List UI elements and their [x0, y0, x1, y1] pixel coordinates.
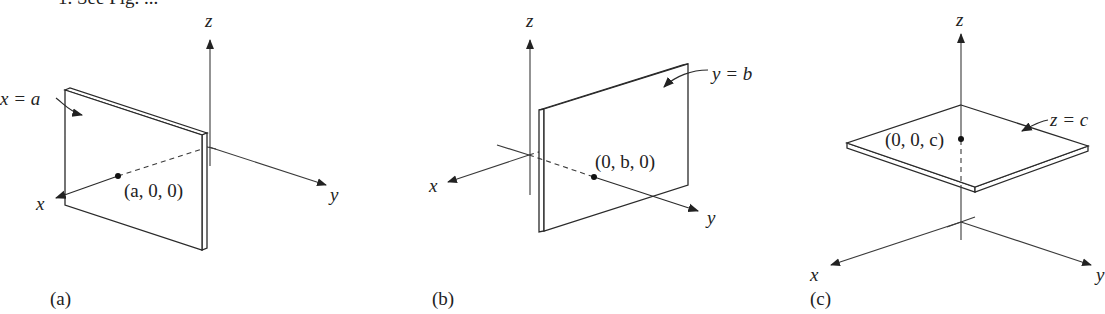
plate-side-edge: [539, 109, 544, 232]
y-axis-label: y: [328, 184, 339, 205]
x-axis-back: [497, 145, 529, 155]
z-axis-label: z: [525, 10, 534, 31]
plate-x-equals-a: [65, 90, 202, 250]
panel-caption: (b): [432, 288, 454, 310]
panel-caption: (c): [810, 288, 831, 310]
plate-y-equals-b: [544, 64, 688, 231]
point-marker: [958, 136, 964, 142]
plate-side-edge: [202, 133, 207, 250]
z-axis-label: z: [955, 9, 964, 30]
point-label: (a, 0, 0): [124, 180, 183, 202]
x-axis: [448, 155, 529, 182]
panel-c: z y x z = c (0, 0, c) (c): [809, 9, 1105, 310]
panel-b: z y x y = b (0, b, 0) (b): [428, 10, 752, 310]
x-axis-label: x: [35, 193, 45, 214]
point-label: (0, b, 0): [595, 151, 655, 173]
x-axis-label: x: [809, 264, 819, 285]
panel-caption: (a): [50, 288, 71, 310]
x-axis-label: x: [428, 175, 438, 196]
plane-label: z = c: [1049, 109, 1089, 130]
y-axis: [209, 147, 326, 185]
y-axis-label: y: [705, 207, 716, 228]
panel-a: z y x x = a (a, 0, 0) (a): [0, 10, 339, 310]
point-label: (0, 0, c): [885, 129, 944, 151]
y-axis: [961, 222, 1091, 265]
coordinate-planes-figure: 1. See Fig. ... z y x x = a (a, 0, 0) (a…: [0, 0, 1105, 314]
plane-label: x = a: [0, 88, 40, 109]
point-marker: [591, 174, 597, 180]
x-axis: [831, 222, 961, 265]
header-partial-text: 1. See Fig. ...: [58, 0, 158, 8]
y-axis-label: y: [1094, 264, 1105, 285]
plane-label: y = b: [710, 63, 752, 84]
point-marker: [115, 173, 121, 179]
z-axis-label: z: [204, 10, 213, 31]
